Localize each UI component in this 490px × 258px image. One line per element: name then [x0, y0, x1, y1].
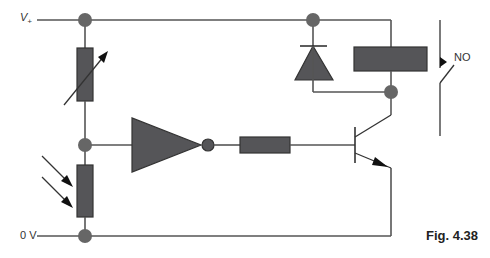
inverter-gate [132, 118, 214, 172]
figure-caption: Fig. 4.38 [426, 228, 478, 243]
circuit-diagram [0, 0, 490, 258]
junction-node [384, 85, 398, 99]
junction-node [78, 13, 92, 27]
switch-type-label: NO [454, 51, 471, 63]
junction-node [306, 13, 320, 27]
emitter-arrow-icon [372, 157, 388, 167]
junction-node [78, 138, 92, 152]
base-resistor [240, 137, 290, 153]
flyback-diode [295, 46, 333, 80]
light-dependent-resistor [42, 156, 93, 217]
ground-label: 0 V [20, 229, 37, 241]
relay-coil [354, 47, 427, 71]
switch-arrow-icon [440, 57, 447, 67]
relay-switch-no [440, 20, 454, 136]
supply-positive-label: V+ [20, 11, 32, 26]
junction-node [78, 229, 92, 243]
npn-transistor [355, 92, 391, 168]
variable-resistor [64, 48, 108, 105]
